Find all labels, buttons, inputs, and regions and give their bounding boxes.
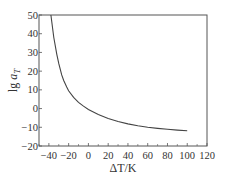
x-tick-label: 100 <box>179 150 195 161</box>
x-axis-label: ΔT/K <box>109 161 136 175</box>
y-tick-label: 20 <box>28 66 39 77</box>
chart: −40−20020406080100120−20−1001020304050ΔT… <box>0 0 228 180</box>
y-tick-label: −20 <box>22 141 38 152</box>
x-tick-label: 120 <box>199 150 215 161</box>
y-tick-label: −10 <box>22 122 38 133</box>
data-curve <box>51 15 187 131</box>
y-axis-label: lg aT <box>6 68 22 92</box>
x-tick-label: 60 <box>142 150 153 161</box>
x-tick-label: 80 <box>162 150 173 161</box>
x-tick-label: 20 <box>103 150 114 161</box>
y-tick-label: 10 <box>28 84 39 95</box>
x-tick-label: 0 <box>86 150 91 161</box>
y-tick-label: 50 <box>28 10 39 21</box>
x-tick-label: 40 <box>123 150 134 161</box>
y-tick-label: 30 <box>28 47 39 58</box>
y-tick-label: 0 <box>33 103 38 114</box>
x-tick-label: −20 <box>60 150 76 161</box>
y-tick-label: 40 <box>28 28 39 39</box>
x-tick-label: −40 <box>41 150 57 161</box>
